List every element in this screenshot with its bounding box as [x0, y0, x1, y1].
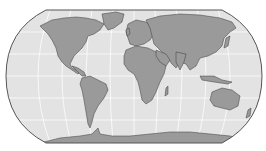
- world-map-svg: [0, 0, 266, 151]
- world-map: [0, 0, 266, 151]
